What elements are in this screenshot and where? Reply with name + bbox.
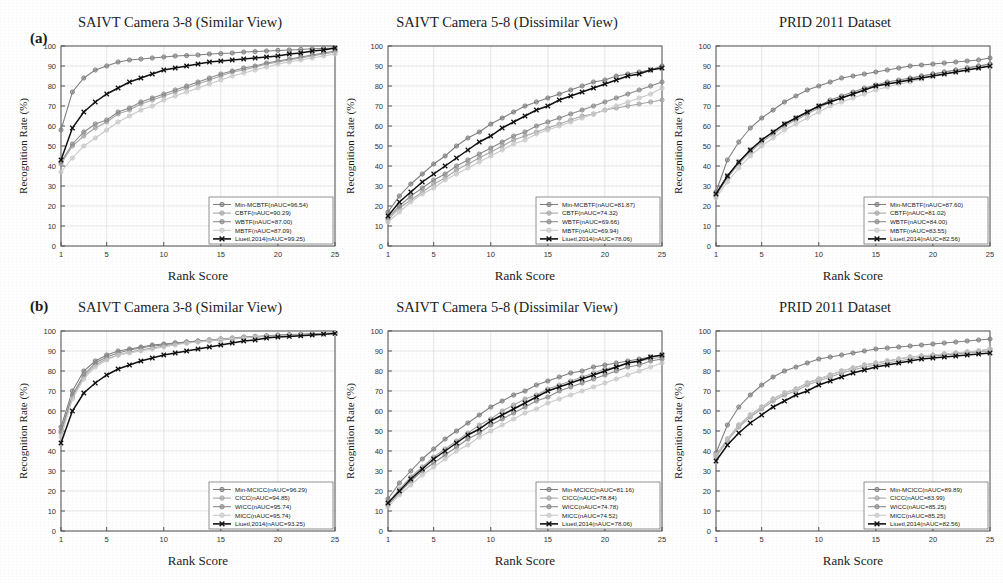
- x-tick-label: 10: [160, 535, 168, 544]
- legend-entry-label: MICC(nAUC=74.52): [562, 512, 618, 519]
- y-tick-label: 0: [379, 242, 383, 251]
- legend-entry-label: CICC(nAUC=83.99): [890, 494, 945, 501]
- y-tick-label: 20: [48, 202, 56, 211]
- legend-entry-label: Liuetl,2014(nAUC=78.06): [562, 235, 632, 242]
- y-tick-label: 100: [43, 327, 56, 336]
- legend-entry-label: Liuetl,2014(nAUC=78.06): [562, 520, 632, 527]
- chart-title: SAIVT Camera 3-8 (Similar View): [15, 14, 345, 31]
- x-tick-label: 15: [217, 250, 225, 259]
- legend: Min-MCBTF(nAUC=87.60)CBTF(nAUC=81.02)WBT…: [864, 197, 988, 244]
- series-2: [714, 62, 992, 198]
- x-tick-label: 1: [59, 250, 63, 259]
- y-tick-label: 0: [379, 527, 383, 536]
- x-tick-label: 10: [487, 535, 495, 544]
- y-tick-label: 10: [48, 222, 56, 231]
- x-tick-label: 25: [658, 535, 666, 544]
- x-tick-label: 5: [760, 250, 764, 259]
- y-tick-label: 50: [703, 142, 711, 151]
- y-tick-label: 50: [48, 142, 56, 151]
- x-tick-label: 15: [544, 250, 552, 259]
- y-tick-label: 10: [703, 222, 711, 231]
- series-5: [59, 331, 337, 445]
- legend-entry-label: CBTF(nAUC=74.32): [562, 209, 618, 216]
- x-tick-label: 10: [487, 250, 495, 259]
- y-tick-label: 70: [48, 102, 56, 111]
- y-tick-label: 10: [375, 507, 383, 516]
- y-tick-label: 60: [703, 122, 711, 131]
- series-4: [714, 347, 992, 457]
- y-tick-label: 80: [703, 82, 711, 91]
- y-tick-label: 100: [698, 327, 711, 336]
- x-tick-label: 1: [386, 535, 390, 544]
- y-tick-label: 80: [703, 367, 711, 376]
- y-tick-label: 20: [703, 487, 711, 496]
- x-tick-label: 20: [929, 535, 937, 544]
- series-4: [59, 331, 337, 439]
- legend-entry-label: CICC(nAUC=78.84): [562, 494, 617, 501]
- x-axis-title: Rank Score: [168, 268, 229, 283]
- y-tick-label: 100: [370, 42, 383, 51]
- x-tick-label: 5: [105, 535, 109, 544]
- y-tick-label: 40: [375, 162, 383, 171]
- y-tick-label: 100: [370, 327, 383, 336]
- y-tick-label: 80: [375, 367, 383, 376]
- x-axis-title: Rank Score: [168, 553, 229, 568]
- y-axis-title: Recognition Rate (%): [672, 98, 685, 194]
- series-5: [59, 46, 337, 162]
- chart-title: SAIVT Camera 5-8 (Dissimilar View): [342, 14, 672, 31]
- y-tick-label: 30: [375, 182, 383, 191]
- y-tick-label: 30: [375, 467, 383, 476]
- legend-entry-label: MICC(nAUC=95.74): [235, 512, 291, 519]
- x-tick-label: 1: [714, 250, 718, 259]
- x-tick-label: 15: [872, 535, 880, 544]
- y-tick-label: 30: [48, 182, 56, 191]
- legend: Min-MCICC(nAUC=96.29)CICC(nAUC=94.85)WIC…: [209, 482, 333, 529]
- legend-entry-label: WBTF(nAUC=84.00): [890, 218, 947, 225]
- y-tick-label: 80: [375, 82, 383, 91]
- x-tick-label: 15: [544, 535, 552, 544]
- x-tick-label: 10: [815, 250, 823, 259]
- y-tick-label: 40: [375, 447, 383, 456]
- y-tick-label: 100: [43, 42, 56, 51]
- legend-entry-label: WBTF(nAUC=69.66): [562, 218, 619, 225]
- x-tick-label: 10: [815, 535, 823, 544]
- y-tick-label: 10: [703, 507, 711, 516]
- legend-entry-label: WICC(nAUC=85.25): [890, 503, 946, 510]
- legend-entry-label: CBTF(nAUC=90.29): [235, 209, 291, 216]
- chart-title: SAIVT Camera 3-8 (Similar View): [15, 299, 345, 316]
- x-tick-label: 25: [986, 250, 994, 259]
- legend-entry-label: CICC(nAUC=94.85): [235, 494, 290, 501]
- legend-entry-label: MBTF(nAUC=83.55): [890, 227, 947, 234]
- y-tick-label: 0: [52, 527, 56, 536]
- x-tick-label: 15: [872, 250, 880, 259]
- chart-b2: SAIVT Camera 5-8 (Dissimilar View) 15101…: [342, 285, 672, 577]
- legend-entry-label: Liuetl,2014(nAUC=99.25): [235, 235, 305, 242]
- series-2: [59, 50, 337, 166]
- x-axis-title: Rank Score: [823, 553, 884, 568]
- series-1: [386, 353, 664, 501]
- y-tick-label: 90: [48, 62, 56, 71]
- y-tick-label: 40: [48, 447, 56, 456]
- x-tick-label: 25: [986, 535, 994, 544]
- y-tick-label: 90: [703, 347, 711, 356]
- legend-entry-label: CBTF(nAUC=81.02): [890, 209, 946, 216]
- y-tick-label: 40: [703, 447, 711, 456]
- y-tick-label: 90: [703, 62, 711, 71]
- legend: Min-MCICC(nAUC=89.89)CICC(nAUC=83.99)WIC…: [864, 482, 988, 529]
- y-axis-title: Recognition Rate (%): [672, 383, 685, 479]
- y-tick-label: 30: [703, 182, 711, 191]
- panel-row-a: (a) SAIVT Camera 3-8 (Similar View) 1510…: [0, 0, 1003, 292]
- y-axis-title: Recognition Rate (%): [344, 98, 357, 194]
- y-tick-label: 60: [375, 122, 383, 131]
- x-tick-label: 25: [331, 535, 339, 544]
- legend-entry-label: Min-MCBTF(nAUC=96.54): [235, 201, 308, 208]
- x-tick-label: 15: [217, 535, 225, 544]
- x-tick-label: 5: [432, 535, 436, 544]
- x-tick-label: 5: [760, 535, 764, 544]
- y-tick-label: 60: [375, 407, 383, 416]
- legend-entry-label: MBTF(nAUC=69.94): [562, 227, 619, 234]
- legend-entry-label: Liuetl,2014(nAUC=82.56): [890, 235, 960, 242]
- x-tick-label: 5: [432, 250, 436, 259]
- x-axis-title: Rank Score: [495, 553, 556, 568]
- chart-a2: SAIVT Camera 5-8 (Dissimilar View) 15101…: [342, 0, 672, 292]
